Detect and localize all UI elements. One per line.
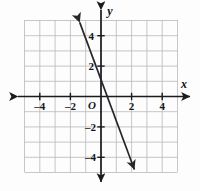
coordinate-plane-figure: –4 –2 2 4 4 2 –2 –4 O x y — [0, 0, 200, 191]
y-tick-label-neg2: –2 — [84, 121, 97, 133]
y-tick-label-neg4: –4 — [84, 151, 97, 163]
origin-label: O — [88, 99, 96, 111]
x-tick-label-2: 2 — [129, 100, 135, 112]
x-tick-label-neg4: –4 — [33, 100, 46, 112]
figure-background — [0, 0, 200, 191]
y-tick-label-4: 4 — [89, 30, 95, 42]
x-tick-label-4: 4 — [159, 100, 165, 112]
x-axis-name: x — [180, 77, 187, 91]
y-tick-label-2: 2 — [89, 60, 95, 72]
graph-svg: –4 –2 2 4 4 2 –2 –4 O x y — [0, 0, 200, 191]
y-axis-name: y — [105, 4, 113, 18]
x-tick-label-neg2: –2 — [64, 100, 77, 112]
